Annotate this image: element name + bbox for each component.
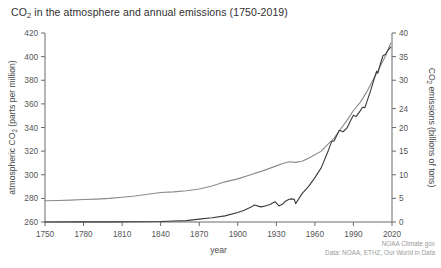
left-axis-tick-label: 280 <box>24 194 38 203</box>
right-axis-tick-label: 15 <box>399 147 409 156</box>
chart-plot-area: 2602803003203403603804004200510152024303… <box>0 0 441 268</box>
co2-chart-figure: CO2 in the atmosphere and annual emissio… <box>0 0 441 268</box>
series-line-right <box>45 47 391 222</box>
credit-source: NOAA Climate.gov <box>382 240 435 247</box>
left-axis-tick-label: 340 <box>24 124 38 133</box>
x-axis-title: year <box>210 245 227 255</box>
x-axis-tick-label: 1960 <box>306 230 325 239</box>
left-axis-tick-label: 400 <box>24 53 38 62</box>
x-axis-tick-label: 1930 <box>267 230 286 239</box>
x-axis-tick-label: 1780 <box>74 230 93 239</box>
right-axis-tick-label: 20 <box>399 124 409 133</box>
x-axis-tick-label: 1750 <box>36 230 55 239</box>
left-axis-title: atmospheric CO2 (parts per million) <box>7 60 18 195</box>
x-axis-tick-label: 1900 <box>229 230 248 239</box>
x-axis-tick-label: 2020 <box>383 230 402 239</box>
left-axis-tick-label: 360 <box>24 100 38 109</box>
left-axis-tick-label: 420 <box>24 29 38 38</box>
right-axis-tick-label: 24 <box>399 105 409 114</box>
left-axis-tick-label: 380 <box>24 76 38 85</box>
right-axis-title: CO2 emissions (billions of tons) <box>426 68 437 188</box>
right-axis-tick-label: 0 <box>399 218 404 227</box>
left-axis-tick-label: 300 <box>24 171 38 180</box>
right-axis-tick-label: 35 <box>399 53 409 62</box>
x-axis-tick-label: 1870 <box>190 230 209 239</box>
right-axis-tick-label: 5 <box>399 194 404 203</box>
x-axis-tick-label: 1840 <box>152 230 171 239</box>
credit-data: Data: NOAA, ETHZ, Our World in Data <box>325 249 435 256</box>
series-line-left <box>45 43 391 201</box>
right-axis-tick-label: 10 <box>399 171 409 180</box>
right-axis-tick-label: 30 <box>399 76 409 85</box>
left-axis-tick-label: 260 <box>24 218 38 227</box>
right-axis-tick-label: 40 <box>399 29 409 38</box>
x-axis-tick-label: 1990 <box>344 230 363 239</box>
left-axis-tick-label: 320 <box>24 147 38 156</box>
x-axis-tick-label: 1810 <box>113 230 132 239</box>
